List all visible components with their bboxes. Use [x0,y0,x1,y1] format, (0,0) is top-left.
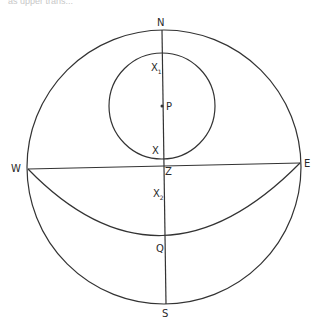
label-x2: X2 [153,188,164,201]
label-e: E [304,158,310,169]
label-w: W [11,163,21,174]
label-q: Q [156,243,164,254]
label-x: X [152,145,159,156]
label-x1: X1 [151,62,162,75]
label-s: S [162,308,168,319]
celestial-diagram: N X1 P X Z W E X2 Q S [0,0,328,324]
label-z: Z [165,166,172,177]
point-p [161,105,164,108]
label-x1-sub: 1 [158,68,162,75]
label-x2-sub: 2 [160,194,164,201]
label-p: P [166,101,172,112]
label-n: N [157,17,164,28]
